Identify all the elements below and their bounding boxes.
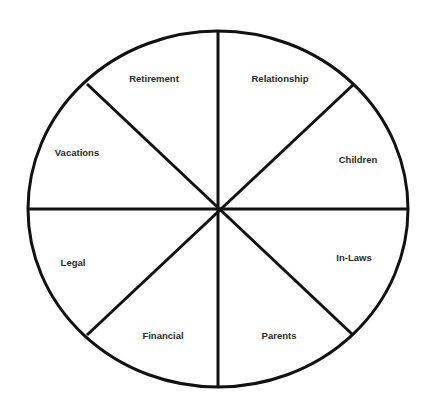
segment-label-retirement: Retirement: [129, 73, 179, 84]
segment-label-parents: Parents: [262, 330, 297, 341]
segment-label-in-laws: In-Laws: [336, 252, 371, 263]
segment-label-children: Children: [339, 154, 378, 165]
segment-label-relationship: Relationship: [251, 73, 308, 84]
life-wheel-diagram: Retirement Relationship Children In-Laws…: [0, 0, 434, 414]
segment-label-legal: Legal: [61, 257, 86, 268]
segment-label-vacations: Vacations: [55, 147, 99, 158]
segment-label-financial: Financial: [142, 330, 183, 341]
